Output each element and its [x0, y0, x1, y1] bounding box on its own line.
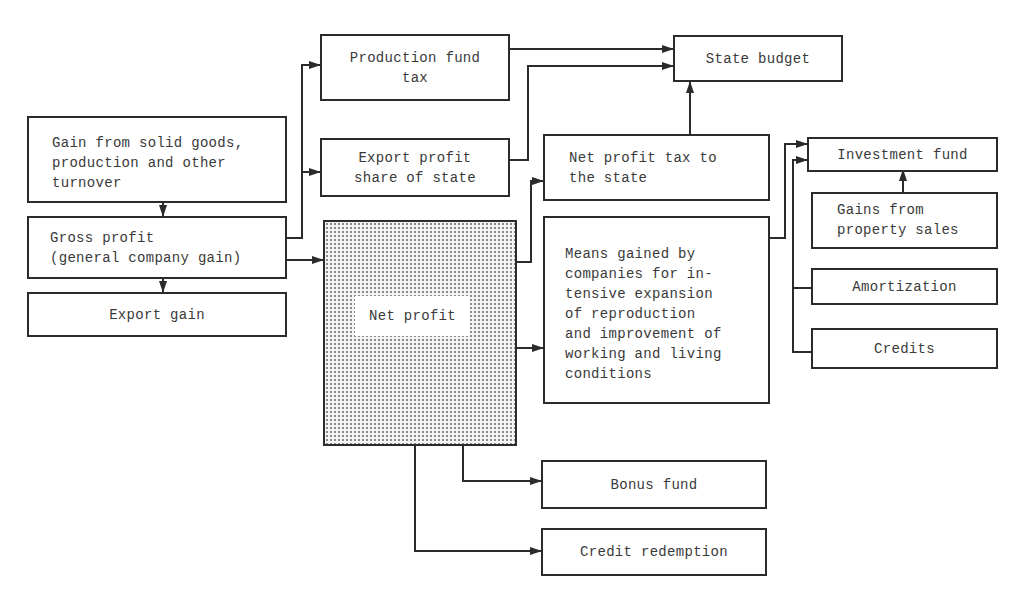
node-property-sales: Gains from property sales — [811, 192, 998, 249]
arrow-net-to-net-tax — [517, 181, 543, 262]
node-credits: Credits — [811, 328, 998, 369]
node-export-gain: Export gain — [27, 292, 287, 337]
arrow-net-to-bonus — [463, 446, 541, 481]
arrow-sources-to-investment — [793, 160, 811, 352]
arrow-means-to-investment — [770, 144, 807, 238]
node-label: Investment fund — [837, 145, 968, 165]
node-net-profit: Net profit — [323, 220, 517, 446]
node-credit-redemption: Credit redemption — [541, 528, 767, 576]
node-label: Export gain — [109, 305, 205, 325]
node-state-budget: State budget — [673, 35, 843, 82]
node-bonus-fund: Bonus fund — [541, 460, 767, 509]
node-gross-profit: Gross profit (general company gain) — [27, 216, 287, 279]
node-label: Production fund tax — [350, 48, 481, 88]
node-label: Credit redemption — [580, 542, 728, 562]
node-label: Export profit share of state — [354, 148, 476, 188]
arrow-gross-to-production-tax — [287, 65, 320, 238]
node-export-profit-share: Export profit share of state — [320, 138, 510, 197]
node-amortization: Amortization — [811, 268, 998, 305]
node-label: Gains from property sales — [837, 200, 959, 240]
node-label: Amortization — [852, 277, 956, 297]
node-net-profit-tax: Net profit tax to the state — [543, 134, 770, 201]
node-production-fund-tax: Production fund tax — [320, 34, 510, 101]
node-means-gained: Means gained by companies for in- tensiv… — [543, 216, 770, 404]
node-investment-fund: Investment fund — [807, 137, 998, 172]
node-label: Means gained by companies for in- tensiv… — [565, 244, 722, 384]
node-label: Net profit tax to the state — [569, 148, 717, 188]
node-label: Net profit — [355, 296, 470, 336]
arrow-net-to-credit-redemption — [415, 446, 541, 551]
node-gain-sources: Gain from solid goods, production and ot… — [27, 116, 287, 203]
node-label: Credits — [874, 339, 935, 359]
node-label: Gain from solid goods, production and ot… — [52, 133, 243, 193]
node-label: Bonus fund — [610, 475, 697, 495]
node-label: Gross profit (general company gain) — [50, 228, 241, 268]
node-label: State budget — [706, 49, 810, 69]
